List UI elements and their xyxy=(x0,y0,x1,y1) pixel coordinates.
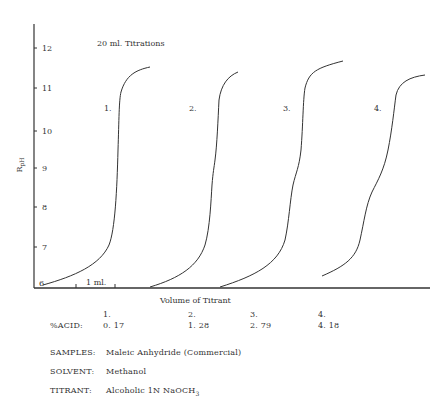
x-axis-label: Volume of Titrant xyxy=(159,296,232,305)
acid-col-1-num: 1. xyxy=(103,310,111,319)
samples-value: Maleic Anhydride (Commercial) xyxy=(106,348,241,357)
chart-title: 20 ml. Titrations xyxy=(97,39,165,48)
solvent-label: SOLVENT: xyxy=(50,367,94,376)
titrant-label: TITRANT: xyxy=(50,386,92,395)
svg-text:9: 9 xyxy=(42,164,47,173)
curve-3 xyxy=(220,61,343,287)
svg-text:2.: 2. xyxy=(189,104,197,113)
svg-text:4.: 4. xyxy=(374,104,382,113)
titration-chart: 12 11 10 9 8 7 6 1 ml. RpH 20 ml. Titrat… xyxy=(0,0,445,404)
acid-col-2-num: 2. xyxy=(188,310,196,319)
svg-text:6: 6 xyxy=(39,279,44,288)
svg-text:8: 8 xyxy=(42,203,47,212)
acid-col-3-num: 3. xyxy=(250,310,258,319)
titrant-value: Alcoholic 1N NaOCH3 xyxy=(106,386,199,397)
curve-1 xyxy=(43,67,150,285)
svg-text:12: 12 xyxy=(42,44,52,53)
acid-col-2-value: 1. 28 xyxy=(188,321,209,330)
svg-text:1.: 1. xyxy=(104,104,112,113)
acid-col-1-value: 0. 17 xyxy=(103,321,124,330)
solvent-value: Methanol xyxy=(106,367,146,376)
svg-text:10: 10 xyxy=(42,127,52,136)
curve-labels: 1. 2. 3. 4. xyxy=(104,104,382,113)
svg-text:RpH: RpH xyxy=(15,157,26,172)
svg-text:11: 11 xyxy=(42,84,52,93)
svg-text:3.: 3. xyxy=(283,104,291,113)
acid-col-4-value: 4. 18 xyxy=(318,321,339,330)
y-tick-labels: 12 11 10 9 8 7 6 xyxy=(39,44,52,288)
acid-row-label: %ACID: xyxy=(50,321,83,330)
y-axis-label: RpH xyxy=(15,157,26,172)
acid-col-3-value: 2. 79 xyxy=(250,321,271,330)
acid-col-4-num: 4. xyxy=(318,310,326,319)
scale-note: 1 ml. xyxy=(86,278,106,287)
svg-text:7: 7 xyxy=(42,243,47,252)
samples-label: SAMPLES: xyxy=(50,348,96,357)
